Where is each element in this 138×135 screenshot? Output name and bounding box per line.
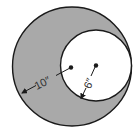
circle-diagram: 10″ 6″: [0, 0, 138, 135]
inner-center-dot: [94, 63, 98, 67]
outer-center-dot: [69, 65, 73, 69]
